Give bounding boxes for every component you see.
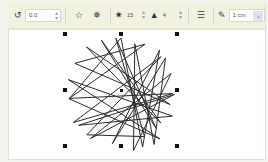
sharpness-icon: ▲ <box>150 10 159 20</box>
selection-handle-top-left[interactable] <box>63 32 67 36</box>
property-bar: ↺ 0.0 ▴▾ ☆ ✵ ✷ 15 ▴▾ ▲ 4 ▴▾ ☰ ✎ 1 cm ⌄ <box>8 2 265 30</box>
outline-width-select[interactable]: 1 cm ⌄ <box>229 9 265 22</box>
selection-handle-right[interactable] <box>175 88 179 92</box>
separator <box>65 7 66 23</box>
separator <box>188 7 189 23</box>
drawing-canvas[interactable] <box>8 30 265 155</box>
selection-handle-top-right[interactable] <box>175 32 179 36</box>
separator <box>110 7 111 23</box>
selection-handle-top[interactable] <box>119 32 123 36</box>
selection-handle-bottom-right[interactable] <box>175 144 179 148</box>
rotate-icon: ↺ <box>14 10 22 20</box>
sharpness-spinner[interactable]: ▴▾ <box>179 10 182 20</box>
selection-handle-left[interactable] <box>63 88 67 92</box>
sharpness-input[interactable]: 4 ▴▾ <box>160 9 185 22</box>
selection-handle-bottom-left[interactable] <box>63 144 67 148</box>
selection-handle-bottom[interactable] <box>119 144 123 148</box>
polygon-star-icon[interactable]: ☆ <box>75 10 83 20</box>
star-points-value: 15 <box>127 12 134 18</box>
chevron-down-icon[interactable]: ⌄ <box>253 11 263 21</box>
sharpness-value: 4 <box>163 12 166 18</box>
rotation-spinner[interactable]: ▴▾ <box>55 11 58 21</box>
center-marker[interactable] <box>120 89 123 92</box>
star-points-spinner[interactable]: ▴▾ <box>142 10 145 20</box>
complex-star-shape[interactable] <box>8 30 265 155</box>
outline-pen-icon: ✎ <box>218 10 226 20</box>
rotation-angle-input[interactable]: 0.0 ▴▾ <box>25 9 61 22</box>
star-points-icon: ✷ <box>115 10 123 20</box>
star-points-input[interactable]: 15 ▴▾ <box>124 9 147 22</box>
wrap-text-icon[interactable]: ☰ <box>197 10 205 20</box>
separator <box>213 7 214 23</box>
rotation-angle-value: 0.0 <box>29 12 37 18</box>
complex-star-icon[interactable]: ✵ <box>93 10 101 20</box>
outline-width-value: 1 cm <box>233 12 246 18</box>
